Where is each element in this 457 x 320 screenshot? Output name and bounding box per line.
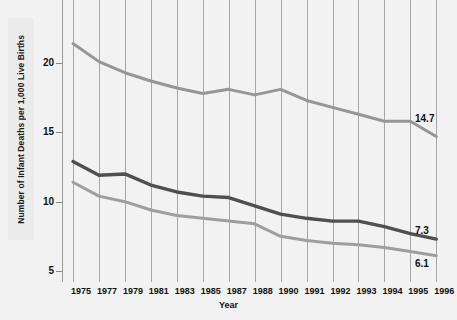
line-series-lower xyxy=(73,182,436,255)
infant-mortality-line-chart: Number of Infant Deaths per 1,000 Live B… xyxy=(0,0,457,320)
x-tick-label: 1988 xyxy=(253,286,273,296)
x-tick-label: 1995 xyxy=(408,286,428,296)
x-tick-label: 1994 xyxy=(382,286,402,296)
x-tick-label: 1981 xyxy=(149,286,169,296)
x-tick-label: 1992 xyxy=(330,286,350,296)
x-tick-label: 1977 xyxy=(97,286,117,296)
end-label-lower: 6.1 xyxy=(415,257,429,268)
x-axis-title: Year xyxy=(0,300,457,310)
x-tick-label: 1991 xyxy=(305,286,325,296)
end-label-upper: 14.7 xyxy=(415,113,434,124)
x-tick-label: 1979 xyxy=(123,286,143,296)
line-series-upper xyxy=(73,44,436,137)
x-tick-label: 1987 xyxy=(227,286,247,296)
x-tick-label: 1985 xyxy=(201,286,221,296)
line-series-middle xyxy=(73,161,436,239)
end-label-middle: 7.3 xyxy=(415,225,429,236)
x-tick-label: 1975 xyxy=(71,286,91,296)
x-tick-label: 1993 xyxy=(356,286,376,296)
x-tick-label: 1983 xyxy=(175,286,195,296)
x-tick-label: 1996 xyxy=(434,286,454,296)
series-lines xyxy=(0,0,457,320)
x-tick-label: 1990 xyxy=(279,286,299,296)
